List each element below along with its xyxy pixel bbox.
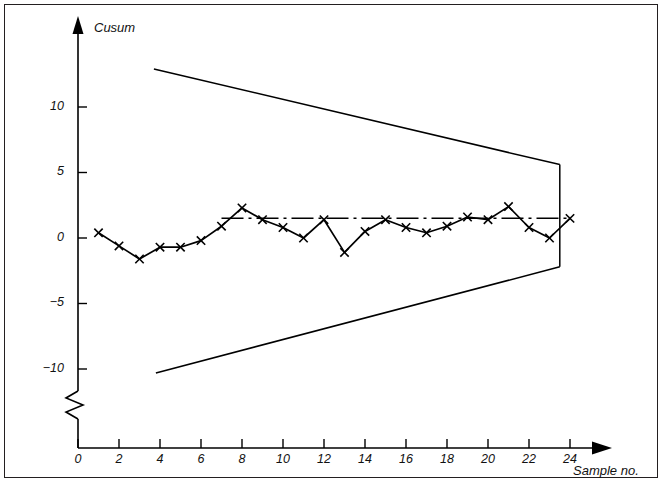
x-tick-label-12: 12 xyxy=(308,452,340,466)
x-tick-label-20: 20 xyxy=(472,452,504,466)
v-mask-lower-limit-line xyxy=(156,267,560,373)
y-tick-label-0: 0 xyxy=(18,230,64,244)
x-tick-label-8: 8 xyxy=(226,452,258,466)
x-tick-label-22: 22 xyxy=(513,452,545,466)
x-tick-label-14: 14 xyxy=(349,452,381,466)
x-axis-arrowhead xyxy=(592,442,612,455)
v-mask xyxy=(154,69,560,373)
x-tick-label-4: 4 xyxy=(144,452,176,466)
y-tick-label-neg5: −5 xyxy=(18,295,64,309)
x-tick-label-2: 2 xyxy=(103,452,135,466)
x-tick-label-0: 0 xyxy=(62,452,94,466)
y-axis-title: Cusum xyxy=(94,20,135,35)
x-tick-label-6: 6 xyxy=(185,452,217,466)
y-tick-marks xyxy=(78,107,87,369)
y-axis xyxy=(66,16,84,448)
y-tick-label-10: 10 xyxy=(18,99,64,113)
x-tick-label-10: 10 xyxy=(267,452,299,466)
y-tick-label-5: 5 xyxy=(18,164,64,178)
chart-page: 10 5 0 −5 −10 0 2 4 6 8 10 12 14 16 18 2… xyxy=(0,0,662,482)
cusum-chart-canvas xyxy=(0,0,662,482)
x-tick-label-16: 16 xyxy=(390,452,422,466)
y-axis-break-icon xyxy=(66,391,83,419)
y-tick-label-neg10: −10 xyxy=(18,361,64,375)
y-axis-arrowhead xyxy=(73,16,84,34)
x-tick-label-18: 18 xyxy=(431,452,463,466)
v-mask-upper-limit-line xyxy=(154,69,560,165)
x-axis-title: Sample no. xyxy=(573,463,639,478)
cusum-series-line xyxy=(99,207,571,259)
x-tick-marks xyxy=(78,439,570,448)
